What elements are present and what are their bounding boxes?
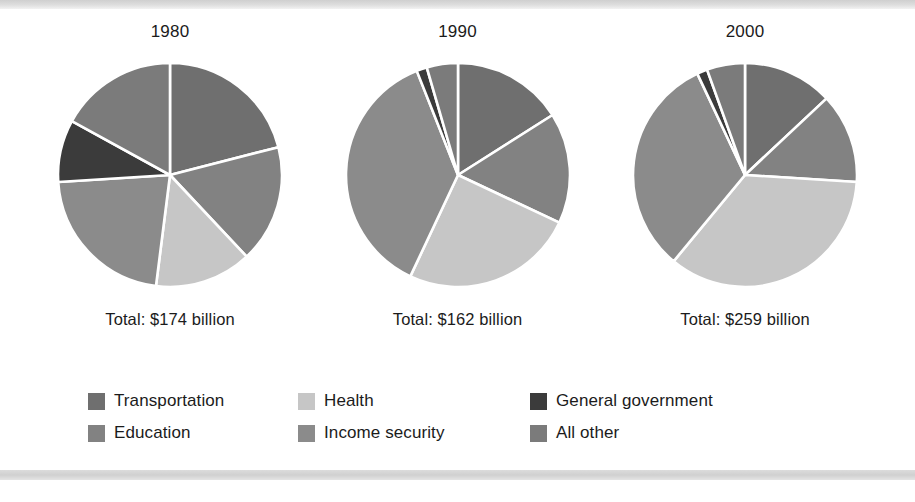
legend-swatch-transportation	[88, 393, 105, 410]
legend-label-health: Health	[324, 391, 374, 411]
chart-title-2000: 2000	[726, 22, 765, 42]
legend-item-transportation: Transportation	[88, 386, 298, 416]
pie-chart-1980	[49, 54, 291, 296]
chart-cell-1990: 1990 Total: $162 billion	[322, 22, 594, 362]
legend-item-general-government: General government	[530, 386, 827, 416]
pie-chart-figure: 1980 Total: $174 billion 1990 Total: $16…	[0, 0, 915, 502]
pie-svg	[337, 54, 579, 296]
legend-swatch-all-other	[530, 425, 547, 442]
pie-chart-2000	[624, 54, 866, 296]
legend-label-general-government: General government	[556, 391, 713, 411]
chart-cell-1980: 1980 Total: $174 billion	[34, 22, 306, 362]
chart-cell-2000: 2000 Total: $259 billion	[609, 22, 881, 362]
pie-chart-1990	[337, 54, 579, 296]
legend-label-transportation: Transportation	[114, 391, 224, 411]
legend-swatch-education	[88, 425, 105, 442]
bottom-divider-rule	[0, 470, 915, 480]
legend-label-all-other: All other	[556, 423, 619, 443]
legend-swatch-income-security	[298, 425, 315, 442]
legend-label-income-security: Income security	[324, 423, 445, 443]
chart-total-1980: Total: $174 billion	[105, 310, 234, 329]
legend-item-income-security: Income security	[298, 418, 530, 448]
charts-row: 1980 Total: $174 billion 1990 Total: $16…	[0, 22, 915, 362]
legend-swatch-health	[298, 393, 315, 410]
pie-svg	[624, 54, 866, 296]
pie-slice-income-security	[58, 175, 170, 286]
top-divider-rule	[0, 0, 915, 9]
legend-item-all-other: All other	[530, 418, 827, 448]
chart-title-1980: 1980	[151, 22, 190, 42]
legend-item-education: Education	[88, 418, 298, 448]
legend-swatch-general-government	[530, 393, 547, 410]
pie-svg	[49, 54, 291, 296]
chart-total-2000: Total: $259 billion	[680, 310, 809, 329]
chart-total-1990: Total: $162 billion	[393, 310, 522, 329]
legend: Transportation Health General government…	[0, 386, 915, 448]
legend-item-health: Health	[298, 386, 530, 416]
chart-title-1990: 1990	[438, 22, 477, 42]
legend-label-education: Education	[114, 423, 191, 443]
